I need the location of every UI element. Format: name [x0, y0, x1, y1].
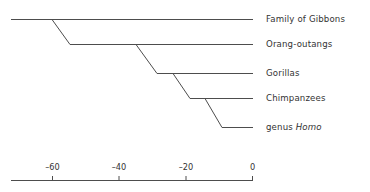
branch-gorilla-split-diagonal — [173, 74, 190, 99]
axis-tick-label-zero: 0 — [250, 163, 255, 171]
taxon-label-homo-genus: Homo — [296, 122, 322, 132]
branch-gibbon-split-diagonal — [52, 20, 70, 45]
phylogenetic-tree-figure: Family of Gibbons Orang-outangs Gorillas… — [0, 0, 370, 192]
axis-tick-label-minus-40: –40 — [112, 163, 127, 171]
taxon-label-gibbons: Family of Gibbons — [266, 15, 345, 24]
taxon-label-gorillas: Gorillas — [266, 69, 300, 78]
tree-branches — [11, 20, 253, 128]
time-axis — [11, 176, 253, 181]
taxon-label-chimpanzees: Chimpanzees — [266, 94, 326, 103]
taxon-label-homo-prefix: genus — [266, 122, 296, 132]
axis-tick-label-minus-60: –60 — [45, 163, 60, 171]
taxon-label-orangutans: Orang-outangs — [266, 40, 332, 49]
taxon-label-homo: genus Homo — [266, 123, 322, 132]
branch-orangutan-split-diagonal — [136, 45, 157, 74]
branch-chimp-human-split-diagonal — [205, 99, 222, 128]
axis-tick-label-minus-20: –20 — [179, 163, 194, 171]
